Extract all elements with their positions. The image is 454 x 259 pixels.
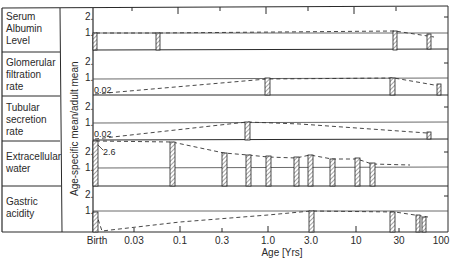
svg-text:2.: 2. — [85, 101, 93, 112]
label-tubular-2: secretion — [6, 114, 47, 125]
label-gastric-1: Gastric — [6, 196, 38, 207]
svg-text:1.: 1. — [85, 117, 93, 128]
svg-text:1.: 1. — [85, 27, 93, 38]
bottom-ticks — [134, 226, 399, 232]
panel-serum-albumin — [93, 31, 434, 50]
label-tubular-3: rate — [6, 126, 24, 137]
label-serum-albumin-3: Level — [6, 35, 30, 46]
svg-text:1.: 1. — [85, 205, 93, 216]
panel-tubular: 0.02 — [94, 122, 431, 140]
panel-labels: Serum Albumin Level Glomerular filtratio… — [5, 11, 62, 219]
svg-text:1.: 1. — [85, 72, 93, 83]
svg-text:2.: 2. — [85, 146, 93, 157]
label-tubular-1: Tubular — [6, 102, 40, 113]
label-gfr-1: Glomerular — [6, 57, 56, 68]
label-ecw-1: Extracellular — [6, 151, 62, 162]
svg-text:2.: 2. — [85, 56, 93, 67]
label-gastric-2: acidity — [6, 208, 34, 219]
svg-text:10: 10 — [350, 235, 362, 246]
svg-text:Birth: Birth — [87, 235, 108, 246]
svg-text:100: 100 — [433, 235, 450, 246]
right-ticks — [444, 17, 448, 196]
label-ecw-2: water — [5, 163, 31, 174]
y-tick-labels: 2. 1. 2. 1. 2. 1. 2. 1. 2. 1. — [85, 11, 93, 216]
svg-text:30: 30 — [393, 235, 405, 246]
y-axis-label: Age-specific mean/adult mean — [69, 61, 80, 196]
svg-text:2.: 2. — [85, 11, 93, 22]
panel-gfr: 0.02 — [94, 78, 441, 95]
svg-text:1.: 1. — [85, 162, 93, 173]
label-serum-albumin-1: Serum — [6, 11, 35, 22]
svg-text:3.0: 3.0 — [304, 235, 318, 246]
svg-text:2.6: 2.6 — [103, 147, 116, 157]
svg-text:0.02: 0.02 — [94, 129, 112, 139]
panel-gastric — [93, 211, 428, 232]
svg-text:0.03: 0.03 — [124, 235, 144, 246]
svg-text:1.0: 1.0 — [261, 235, 275, 246]
label-gfr-3: rate — [6, 81, 24, 92]
label-gfr-2: filtration — [6, 69, 41, 80]
x-axis-label: Age [Yrs] — [261, 247, 302, 258]
x-tick-labels: Birth 0.03 0.1 0.3 1.0 3.0 10 30 100 — [87, 235, 450, 246]
svg-text:0.1: 0.1 — [173, 235, 187, 246]
top-ticks — [132, 7, 396, 14]
label-serum-albumin-2: Albumin — [6, 23, 42, 34]
panel-ecw: 2.6 — [93, 141, 410, 186]
svg-text:2.: 2. — [85, 189, 93, 200]
svg-text:0.3: 0.3 — [215, 235, 229, 246]
multi-panel-age-chart: 2. 1. 2. 1. 2. 1. 2. 1. 2. 1. Serum Albu… — [0, 0, 454, 259]
